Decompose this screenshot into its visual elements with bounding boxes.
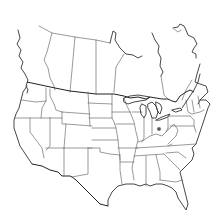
al-ga-border <box>156 155 160 180</box>
lake-ontario <box>172 108 182 112</box>
outline-map <box>0 0 218 216</box>
id-mt-border <box>50 89 62 112</box>
mt-wy-border <box>62 112 90 114</box>
bc-coast <box>17 30 28 93</box>
alberta-sask-border <box>70 37 75 92</box>
united-states <box>14 74 210 210</box>
nv-ut-border <box>46 118 50 150</box>
lake-superior <box>124 95 150 104</box>
nh-me-border <box>198 96 200 108</box>
manitoba-ontario-border <box>114 54 124 92</box>
tn-south-border <box>134 154 164 156</box>
us-canada-border <box>27 82 194 102</box>
la-tx-border <box>120 155 122 184</box>
ky-tn-border <box>136 144 172 148</box>
nc-sc-border <box>166 152 186 158</box>
quebec-labrador-border <box>174 29 181 32</box>
us-east-coast <box>180 100 210 180</box>
ca-nv-border <box>30 118 44 158</box>
ut-co-border <box>62 118 66 148</box>
nm-tx-border <box>72 148 88 177</box>
labrador-coast <box>173 24 197 58</box>
mississippi-border <box>130 112 138 180</box>
dakotas-mn-border <box>112 94 120 160</box>
us-west-coast <box>14 86 32 164</box>
mt-nd-border <box>88 92 90 126</box>
nj-border <box>190 116 196 132</box>
hudson-bay-coast-east <box>152 33 163 76</box>
gulf-coast <box>108 180 188 210</box>
wa-or-border <box>21 100 46 102</box>
ok-tx-border <box>88 148 120 155</box>
hudson-bay-coast-west <box>110 31 142 58</box>
mn-wi-border <box>124 98 130 112</box>
lake-michigan <box>140 104 146 118</box>
bc-alberta-border <box>44 33 55 90</box>
wy-co-border <box>66 124 92 126</box>
nd-sd-border <box>88 103 112 104</box>
wa-id-border <box>41 88 46 118</box>
new-england-borders <box>186 100 204 114</box>
ontario-quebec-border <box>161 76 168 99</box>
ohio-river-border <box>138 128 168 142</box>
location-marker <box>157 127 161 131</box>
lake-huron <box>156 102 162 114</box>
ga-fl-border <box>160 180 182 182</box>
il-in-border <box>142 118 144 142</box>
ga-sc-border <box>164 154 180 170</box>
vt-nh-border <box>192 100 194 112</box>
nc-va-border <box>168 144 196 146</box>
id-ut-border <box>50 112 62 118</box>
us-mexico-border <box>32 164 108 206</box>
michigan-peninsula <box>148 102 158 118</box>
